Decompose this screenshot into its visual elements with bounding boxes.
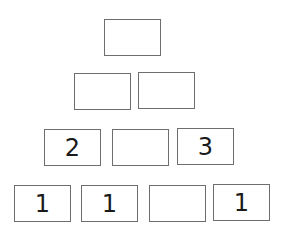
pyramid-cell-r4-c1: 1 [14,185,71,222]
pyramid-cell-r3-c3: 3 [177,128,234,165]
pyramid-cell-r3-c1: 2 [44,129,101,166]
pyramid-cell-r3-c2[interactable] [112,129,169,166]
pyramid-cell-r4-c2: 1 [81,185,138,222]
pyramid-cell-r4-c3[interactable] [149,185,206,222]
pyramid-cell-r2-c2[interactable] [138,72,195,109]
pyramid-cell-r2-c1[interactable] [74,73,131,110]
pyramid-cell-r1-c1[interactable] [104,19,161,56]
pyramid-cell-r4-c4: 1 [213,184,270,221]
